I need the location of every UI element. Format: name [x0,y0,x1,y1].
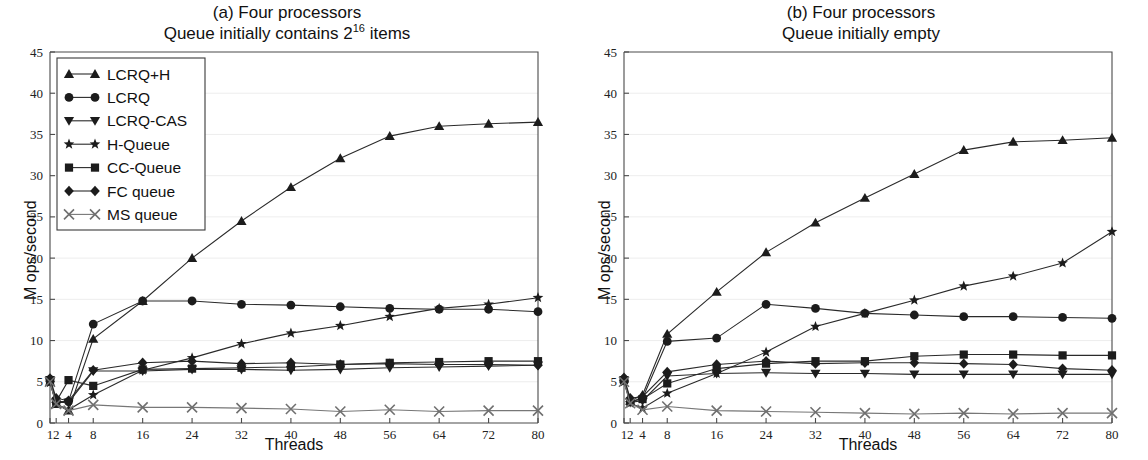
legend: LCRQ+HLCRQLCRQ-CASH-QueueCC-QueueFC queu… [57,58,205,230]
series-h-queue [45,292,544,414]
svg-text:48: 48 [908,427,921,442]
svg-text:45: 45 [604,45,617,60]
svg-text:64: 64 [1007,427,1021,442]
y-axis-ticks: 051015202530354045 [604,45,629,431]
panel-a-plot: 0510152025303540451248162432404856647280… [0,0,574,460]
y-axis-ticks: 051015202530354045 [30,45,55,431]
svg-text:56: 56 [957,427,971,442]
svg-text:35: 35 [30,127,43,142]
svg-text:4: 4 [639,427,646,442]
svg-text:24: 24 [760,427,774,442]
panel-a: (a) Four processors Queue initially cont… [0,0,574,460]
svg-text:56: 56 [383,427,397,442]
svg-text:30: 30 [30,168,43,183]
svg-text:15: 15 [30,292,43,307]
svg-text:15: 15 [604,292,617,307]
svg-text:8: 8 [664,427,671,442]
svg-text:32: 32 [235,427,248,442]
svg-text:35: 35 [604,127,617,142]
series-lcrq-cas [619,369,1117,408]
legend-label-fc-queue: FC queue [107,183,175,200]
series-lcrq [620,300,1117,406]
svg-text:0: 0 [611,416,618,431]
svg-text:32: 32 [809,427,822,442]
svg-text:10: 10 [30,333,43,348]
svg-text:40: 40 [858,427,871,442]
svg-text:64: 64 [433,427,447,442]
legend-label-cc-queue: CC-Queue [107,159,181,176]
svg-text:40: 40 [284,427,297,442]
svg-text:16: 16 [710,427,724,442]
legend-label-ms-queue: MS queue [107,206,178,223]
svg-text:2: 2 [53,427,60,442]
svg-text:40: 40 [30,86,43,101]
svg-text:8: 8 [90,427,97,442]
series-fc-queue [619,356,1117,404]
figure-container: (a) Four processors Queue initially cont… [0,0,1148,460]
svg-text:16: 16 [136,427,150,442]
svg-text:48: 48 [334,427,347,442]
svg-text:2: 2 [627,427,634,442]
svg-text:5: 5 [611,374,618,389]
svg-text:10: 10 [604,333,617,348]
legend-label-lcrq-h: LCRQ+H [107,66,170,83]
svg-text:80: 80 [1106,427,1119,442]
series-fc-queue [45,356,543,406]
series-ms-queue [45,377,543,417]
series-cc-queue [620,350,1116,405]
panel-b: (b) Four processors Queue initially empt… [574,0,1148,460]
svg-text:72: 72 [482,427,495,442]
series-h-queue [619,226,1118,413]
svg-text:20: 20 [30,251,43,266]
series-lcrq [46,297,543,406]
legend-label-h-queue: H-Queue [107,136,170,153]
svg-text:40: 40 [604,86,617,101]
x-axis-ticks: 1248162432404856647280 [621,418,1119,442]
legend-label-lcrq: LCRQ [107,89,150,106]
x-axis-ticks: 1248162432404856647280 [47,418,545,442]
panel-b-plot: 0510152025303540451248162432404856647280 [574,0,1148,460]
svg-text:80: 80 [532,427,545,442]
svg-text:20: 20 [604,251,617,266]
svg-text:72: 72 [1056,427,1069,442]
svg-text:24: 24 [186,427,200,442]
svg-text:25: 25 [604,209,617,224]
svg-text:5: 5 [37,374,44,389]
svg-text:30: 30 [604,168,617,183]
legend-label-lcrq-cas: LCRQ-CAS [107,112,187,129]
svg-text:45: 45 [30,45,43,60]
svg-text:25: 25 [30,209,43,224]
svg-text:4: 4 [65,427,72,442]
svg-text:0: 0 [37,416,44,431]
gridlines [624,93,1112,382]
